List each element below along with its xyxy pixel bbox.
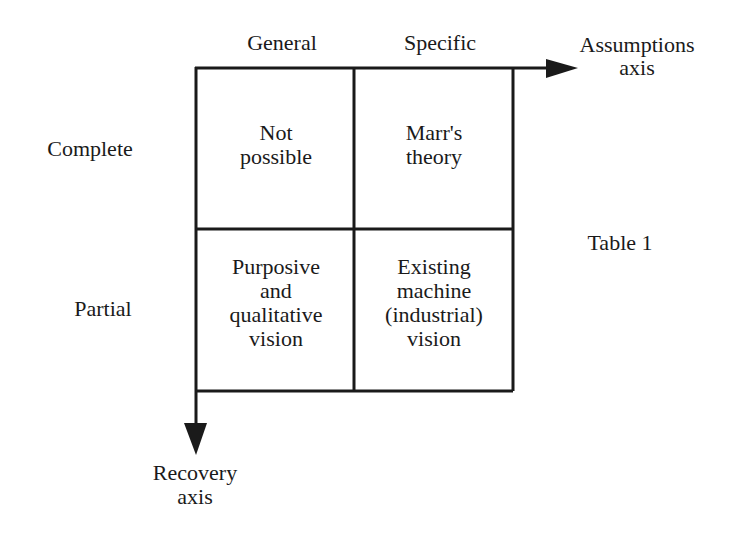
cell-text-line: theory <box>358 145 510 169</box>
recovery-axis-label: Recovery axis <box>130 460 260 510</box>
cell-text-line: and <box>200 279 352 303</box>
column-header-specific: Specific <box>385 30 495 56</box>
cell-text-line: Marr's <box>358 121 510 145</box>
cell-partial-general: Purposive and qualitative vision <box>200 255 352 351</box>
table-caption: Table 1 <box>570 230 670 256</box>
cell-complete-specific: Marr's theory <box>358 121 510 169</box>
column-header-general: General <box>226 30 338 56</box>
arrow-down-icon <box>184 423 207 455</box>
row-header-complete: Complete <box>30 136 150 162</box>
cell-text-line: (industrial) <box>358 303 510 327</box>
cell-text-line: qualitative <box>200 303 352 327</box>
axis-label-line: Recovery <box>130 460 260 486</box>
cell-complete-general: Not possible <box>200 121 352 169</box>
cell-text-line: vision <box>200 327 352 351</box>
cell-text-line: machine <box>358 279 510 303</box>
row-header-partial: Partial <box>48 296 158 322</box>
cell-text-line: Existing <box>358 255 510 279</box>
cell-partial-specific: Existing machine (industrial) vision <box>358 255 510 351</box>
assumptions-axis-label: Assumptions axis <box>552 32 722 81</box>
cell-text-line: vision <box>358 327 510 351</box>
cell-text-line: possible <box>200 145 352 169</box>
axis-label-line: axis <box>130 484 260 510</box>
axis-label-line: axis <box>552 55 722 81</box>
cell-text-line: Not <box>200 121 352 145</box>
cell-text-line: Purposive <box>200 255 352 279</box>
